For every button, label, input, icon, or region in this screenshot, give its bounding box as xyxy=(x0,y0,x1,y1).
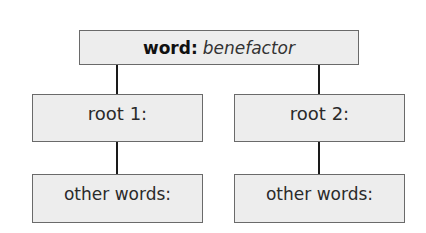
other-words-1-box: other words: xyxy=(32,174,203,223)
connector-top-right xyxy=(318,64,320,95)
connector-root1-words xyxy=(116,141,118,175)
root-1-box: root 1: xyxy=(32,94,203,142)
word-label: word: xyxy=(143,38,198,58)
root-2-box: root 2: xyxy=(234,94,405,142)
other-words-1-label: other words: xyxy=(64,184,171,204)
word-value: benefactor xyxy=(203,38,295,58)
root-1-label: root 1: xyxy=(88,103,147,124)
other-words-2-label: other words: xyxy=(266,184,373,204)
connector-top-left xyxy=(116,64,118,95)
other-words-2-box: other words: xyxy=(234,174,405,223)
connector-root2-words xyxy=(318,141,320,175)
word-box: word: benefactor xyxy=(79,30,359,65)
root-2-label: root 2: xyxy=(290,103,349,124)
